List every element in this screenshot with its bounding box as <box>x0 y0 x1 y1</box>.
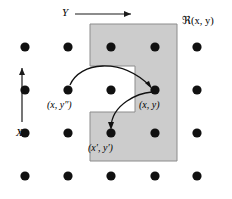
lattice-dot <box>192 42 201 51</box>
axis-label-x: X <box>16 127 23 138</box>
lattice-dot <box>192 85 201 94</box>
arrow-right-icon <box>75 11 131 17</box>
lattice-dot <box>20 85 29 94</box>
lattice-dot <box>20 42 29 51</box>
lattice-dot <box>106 42 115 51</box>
lattice-region-diagram: Y X ℜ(x, y) (x, y″) (x, y) (x′, y′) <box>0 0 232 199</box>
lattice-dot-x-y <box>150 85 159 94</box>
point-label-x-y: (x, y) <box>139 100 160 110</box>
point-label-xp-yp: (x′, y′) <box>88 143 113 153</box>
lattice-dot <box>106 171 115 180</box>
point-label-x-ypp: (x, y″) <box>47 100 72 110</box>
arrow-up-icon <box>19 68 25 122</box>
lattice-dot <box>150 171 159 180</box>
lattice-dot <box>150 128 159 137</box>
lattice-dot <box>106 85 115 94</box>
lattice-dot <box>63 42 72 51</box>
lattice-dot <box>63 128 72 137</box>
axis-label-y: Y <box>62 7 68 18</box>
lattice-dot <box>150 42 159 51</box>
lattice-dot <box>192 128 201 137</box>
diagram-canvas <box>0 0 232 199</box>
lattice-dot-x-ypp <box>63 85 72 94</box>
shaded-region <box>90 24 177 161</box>
lattice-dot <box>63 171 72 180</box>
lattice-dot <box>20 171 29 180</box>
lattice-dot <box>192 171 201 180</box>
region-label: ℜ(x, y) <box>182 16 214 27</box>
